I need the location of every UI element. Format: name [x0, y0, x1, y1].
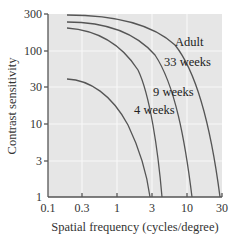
svg-text:0.1: 0.1 — [41, 201, 56, 215]
svg-text:300: 300 — [24, 7, 42, 21]
svg-text:3: 3 — [36, 154, 42, 168]
label-4-weeks: 4 weeks — [134, 103, 175, 117]
svg-text:100: 100 — [24, 44, 42, 58]
y-axis-title: Contrast sensitivity — [5, 57, 19, 155]
chart: Adult 33 weeks 9 weeks 4 weeks 300 100 3… — [0, 0, 239, 236]
svg-text:3: 3 — [149, 201, 155, 215]
svg-text:10: 10 — [30, 117, 42, 131]
x-axis-title: Spatial frequency (cycles/degree) — [51, 220, 218, 234]
svg-text:10: 10 — [181, 201, 193, 215]
label-adult: Adult — [175, 35, 204, 49]
label-33-weeks: 33 weeks — [164, 55, 211, 69]
y-tick-labels: 300 100 30 10 3 1 — [24, 7, 42, 204]
svg-text:30: 30 — [216, 201, 228, 215]
svg-text:30: 30 — [30, 80, 42, 94]
svg-text:0.3: 0.3 — [75, 201, 90, 215]
x-tick-labels: 0.1 0.3 1 3 10 30 — [41, 201, 229, 215]
label-9-weeks: 9 weeks — [153, 85, 194, 99]
svg-text:1: 1 — [114, 201, 120, 215]
